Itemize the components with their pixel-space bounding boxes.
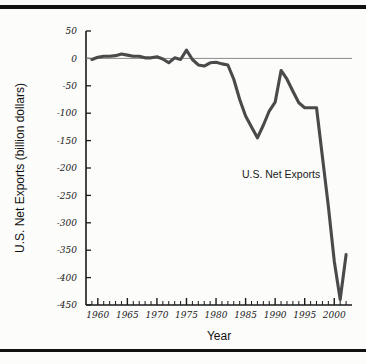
x-tick-label: 1995: [293, 310, 316, 320]
x-tick-label: 1960: [86, 310, 109, 320]
y-tick-label: -350: [57, 245, 77, 255]
y-tick-label: -250: [57, 191, 77, 201]
y-tick-label: -450: [57, 300, 77, 310]
figure-container: 500-50-100-150-200-250-300-350-400-450 1…: [0, 0, 366, 364]
y-tick-label: -150: [57, 136, 77, 146]
y-tick-label: -100: [57, 108, 77, 118]
y-axis-title: U.S. Net Exports (billion dollars): [13, 83, 27, 253]
x-tick-label: 1980: [205, 310, 228, 320]
x-tick-label: 1965: [116, 310, 139, 320]
x-axis-tick-labels: 196019651970197519801985199019952000: [86, 310, 346, 320]
x-tick-label: 2000: [322, 310, 346, 320]
bottom-rule-divider: [0, 349, 366, 352]
x-tick-label: 1990: [264, 310, 287, 320]
y-axis-tick-labels: 500-50-100-150-200-250-300-350-400-450: [57, 26, 78, 310]
chart-plot-area: 500-50-100-150-200-250-300-350-400-450 1…: [0, 9, 366, 349]
y-tick-label: -400: [57, 273, 77, 283]
x-axis-tick-marks: [92, 298, 346, 305]
series-annotation-label: U.S. Net Exports: [242, 168, 320, 180]
y-tick-label: -300: [57, 218, 77, 228]
x-tick-label: 1985: [234, 310, 257, 320]
y-tick-label: 0: [71, 54, 77, 64]
x-tick-label: 1975: [175, 310, 198, 320]
x-axis-title: Year: [207, 329, 231, 343]
y-tick-label: 50: [66, 26, 78, 36]
x-tick-label: 1970: [145, 310, 168, 320]
line-chart: 500-50-100-150-200-250-300-350-400-450 1…: [0, 9, 366, 349]
y-tick-label: -50: [63, 81, 78, 91]
y-tick-label: -200: [57, 163, 77, 173]
